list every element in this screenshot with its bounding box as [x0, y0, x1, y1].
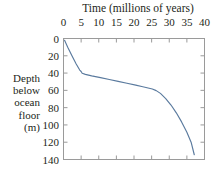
chart-figure: Time (millions of years) 051015202530354…: [0, 0, 220, 180]
data-series-line: [65, 40, 195, 155]
x-axis-ticks: [81, 39, 187, 160]
plot-area: [0, 0, 220, 180]
y-axis-ticks: [64, 56, 205, 142]
plot-frame: [64, 39, 205, 160]
